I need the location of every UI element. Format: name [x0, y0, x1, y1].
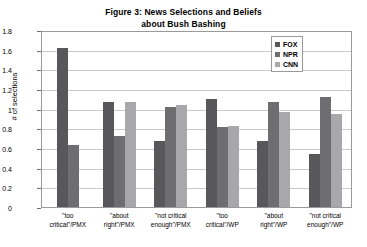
figure-3-bar-chart: Figure 3: News Selections and Beliefs ab… [0, 0, 367, 247]
x-axis-label-line: "not critical [300, 212, 352, 221]
x-axis-label-line: "too [197, 212, 249, 221]
y-axis-tick-label: 1.4 [0, 67, 12, 74]
y-axis-tick-label: 0.6 [0, 146, 12, 153]
bar-group [300, 32, 352, 207]
y-axis-tick-label: 0 [0, 205, 12, 212]
x-axis-category-label: "toocritical"/WP [197, 212, 249, 229]
bar-npr [114, 136, 125, 207]
x-axis-label-line: enough"/WP [300, 221, 352, 230]
y-axis-tick-label: 1.8 [0, 28, 12, 35]
bar-cnn [331, 114, 342, 207]
legend-swatch-icon [275, 62, 280, 67]
bar-cnn [279, 112, 290, 207]
bar-cnn [228, 126, 239, 207]
bar-group [145, 32, 197, 207]
legend-swatch-icon [275, 42, 280, 47]
chart-title: Figure 3: News Selections and Beliefs ab… [0, 7, 367, 30]
bar-npr [268, 102, 279, 207]
chart-legend: FOXNPRCNN [271, 36, 303, 72]
bar-fox [154, 141, 165, 207]
bar-group [94, 32, 146, 207]
bar-fox [206, 99, 217, 207]
x-axis-label-line: "about [94, 212, 146, 221]
x-axis-label-line: enough"/PMX [145, 221, 197, 230]
y-axis-tick-label: 1.6 [0, 47, 12, 54]
x-axis-category-label: "toocritical"/PMX [42, 212, 94, 229]
bar-fox [103, 102, 114, 207]
y-axis-tick-label: 0.8 [0, 126, 12, 133]
bar-fox [257, 141, 268, 207]
bar-npr [165, 107, 176, 207]
bar-npr [217, 127, 228, 207]
bar-cnn [125, 102, 136, 207]
y-axis-tick-label: 1.2 [0, 87, 12, 94]
legend-label: FOX [283, 41, 297, 48]
bar-npr [68, 145, 79, 207]
x-axis-category-label: "not criticalenough"/WP [300, 212, 352, 229]
x-axis-labels: "toocritical"/PMX"aboutright"/PMX"not cr… [42, 212, 351, 229]
chart-title-line-2: about Bush Bashing [0, 19, 367, 31]
x-axis-label-line: right"/PMX [94, 221, 146, 230]
x-axis-label-line: critical"/WP [197, 221, 249, 230]
bar-group [42, 32, 94, 207]
x-axis-label-line: "about [248, 212, 300, 221]
x-axis-label-line: critical"/PMX [42, 221, 94, 230]
x-axis-label-line: "not critical [145, 212, 197, 221]
y-axis-tick-mark [37, 208, 41, 209]
bar-npr [320, 97, 331, 207]
y-axis-tick-label: 0.4 [0, 165, 12, 172]
bar-fox [309, 154, 320, 207]
legend-label: NPR [283, 51, 298, 58]
x-axis-category-label: "aboutright"/WP [248, 212, 300, 229]
y-axis-tick-label: 1 [0, 106, 12, 113]
bar-cnn [176, 105, 187, 207]
legend-item-fox: FOX [275, 39, 298, 49]
y-axis-label: # of selections [10, 37, 19, 157]
legend-swatch-icon [275, 52, 280, 57]
x-axis-category-label: "aboutright"/PMX [94, 212, 146, 229]
bar-groups [42, 32, 351, 207]
x-axis-label-line: "too [42, 212, 94, 221]
legend-item-npr: NPR [275, 49, 298, 59]
y-axis-tick-label: 0.2 [0, 185, 12, 192]
chart-title-line-1: Figure 3: News Selections and Beliefs [0, 7, 367, 19]
legend-label: CNN [283, 61, 298, 68]
x-axis-category-label: "not criticalenough"/PMX [145, 212, 197, 229]
bar-group [197, 32, 249, 207]
legend-item-cnn: CNN [275, 59, 298, 69]
bar-fox [57, 48, 68, 207]
x-axis-label-line: right"/WP [248, 221, 300, 230]
